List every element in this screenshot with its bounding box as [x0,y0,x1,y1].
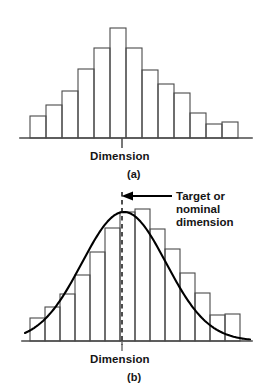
panel-a-axis-label: Dimension [90,150,150,162]
figure-container: Dimension (a) Dimension (b) Target or no… [0,0,273,388]
panel-b-axis-label: Dimension [90,353,150,365]
target-nominal-dimension-annotation: Target or nominal dimension [176,190,234,230]
histogram-bar [195,293,210,341]
histogram-bar [90,252,105,341]
histogram-bar [165,249,180,341]
histogram-bar [75,275,90,341]
histogram-bar [60,294,75,341]
annotation-line-2: nominal [176,203,234,216]
annotation-line-1: Target or [176,190,234,203]
annotation-arrow-head-icon [122,191,134,200]
panel-b-caption: (b) [127,371,141,383]
normal-distribution-curve [25,212,250,340]
histogram-bar [105,228,120,341]
panel-a-caption: (a) [127,168,140,180]
histogram-bar [135,209,150,341]
annotation-line-3: dimension [176,216,234,229]
